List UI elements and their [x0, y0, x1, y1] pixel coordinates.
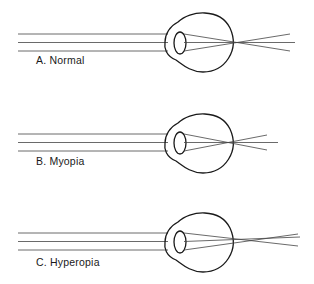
incoming-rays: [18, 134, 168, 151]
label-normal: A. Normal: [36, 54, 84, 66]
eye-globe: [165, 213, 233, 272]
refracted-rays: [184, 34, 295, 51]
incoming-rays: [18, 233, 168, 250]
label-hyperopia: C. Hyperopia: [36, 256, 100, 268]
refraction-diagram: [0, 0, 314, 284]
label-myopia: B. Myopia: [36, 155, 85, 167]
refracted-rays: [184, 233, 300, 250]
refracted-rays: [184, 134, 278, 151]
incoming-rays: [18, 34, 168, 51]
